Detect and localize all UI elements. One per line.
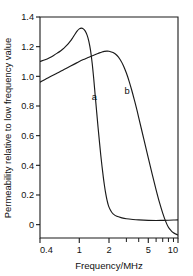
y-tick-label: 1.4 (21, 12, 34, 22)
y-tick-label: 0.8 (21, 101, 34, 111)
y-axis-label: Permeability relative to low frequency v… (2, 38, 13, 218)
y-tick-label: 0.2 (21, 190, 34, 200)
chart-figure: 00.20.40.60.81.01.21.4 0.412510 ab Frequ… (0, 0, 193, 276)
x-axis-label: Frequency/MHz (75, 260, 143, 271)
x-tick-label: 10 (168, 245, 178, 255)
x-tick-label: 1 (77, 245, 82, 255)
annotation-label-a: a (92, 91, 98, 102)
x-tick-label: 0.4 (40, 245, 53, 255)
y-tick-label: 0.6 (21, 131, 34, 141)
annotation-label-b: b (124, 85, 129, 96)
permeability-vs-frequency-chart: 00.20.40.60.81.01.21.4 0.412510 ab Frequ… (0, 0, 193, 276)
x-tick-label: 5 (146, 245, 151, 255)
y-tick-label: 0 (29, 220, 34, 230)
y-tick-label: 1.2 (21, 42, 34, 52)
y-tick-label: 1.0 (21, 72, 34, 82)
y-tick-label: 0.4 (21, 161, 34, 171)
x-tick-label: 2 (106, 245, 111, 255)
